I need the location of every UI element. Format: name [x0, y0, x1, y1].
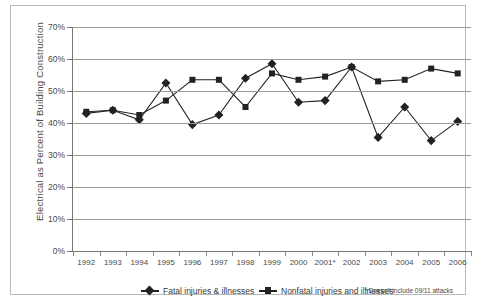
x-axis-tick: [471, 252, 472, 256]
x-axis-label: 2006: [438, 258, 478, 267]
legend-item-fatal: Fatal injuries & illnesses: [141, 286, 254, 296]
x-axis-tick: [179, 252, 180, 256]
y-axis-label: 50%: [25, 86, 65, 96]
x-axis-tick: [444, 252, 445, 256]
x-axis-tick: [312, 252, 313, 256]
x-axis-tick: [153, 252, 154, 256]
gridline: [73, 59, 471, 60]
x-axis-tick: [365, 252, 366, 256]
gridline: [73, 27, 471, 28]
chart-frame: Electrical as Percent of Building Constr…: [10, 5, 466, 295]
legend-label-fatal: Fatal injuries & illnesses: [163, 286, 254, 296]
x-axis-tick: [285, 252, 286, 256]
x-axis-tick: [73, 252, 74, 256]
y-axis-label: 60%: [25, 54, 65, 64]
y-axis-label: 20%: [25, 182, 65, 192]
gridline: [73, 123, 471, 124]
chart-footnote: * Doesn't include 09/11 attacks: [364, 287, 453, 294]
y-axis-label: 70%: [25, 22, 65, 32]
gridline: [73, 219, 471, 220]
gridline: [73, 91, 471, 92]
y-axis-tick: [67, 187, 73, 188]
y-axis-tick: [67, 59, 73, 60]
y-axis-tick: [67, 123, 73, 124]
y-axis-tick: [67, 155, 73, 156]
x-axis-tick: [338, 252, 339, 256]
x-axis-tick: [100, 252, 101, 256]
y-axis-tick: [67, 27, 73, 28]
plot-area: [73, 27, 471, 251]
x-axis-tick: [232, 252, 233, 256]
y-axis-label: 40%: [25, 118, 65, 128]
x-axis-tick: [126, 252, 127, 256]
y-axis-label: 30%: [25, 150, 65, 160]
gridline: [73, 155, 471, 156]
y-axis-label: 0%: [25, 246, 65, 256]
x-axis-tick: [418, 252, 419, 256]
x-axis-tick: [259, 252, 260, 256]
y-axis-label: 10%: [25, 214, 65, 224]
y-axis-tick: [67, 91, 73, 92]
x-axis-tick: [206, 252, 207, 256]
diamond-marker-icon: [141, 290, 159, 292]
x-axis-tick: [391, 252, 392, 256]
x-axis-line: [73, 251, 472, 252]
gridline: [73, 187, 471, 188]
y-axis-tick: [67, 219, 73, 220]
square-marker-icon: [259, 290, 277, 292]
